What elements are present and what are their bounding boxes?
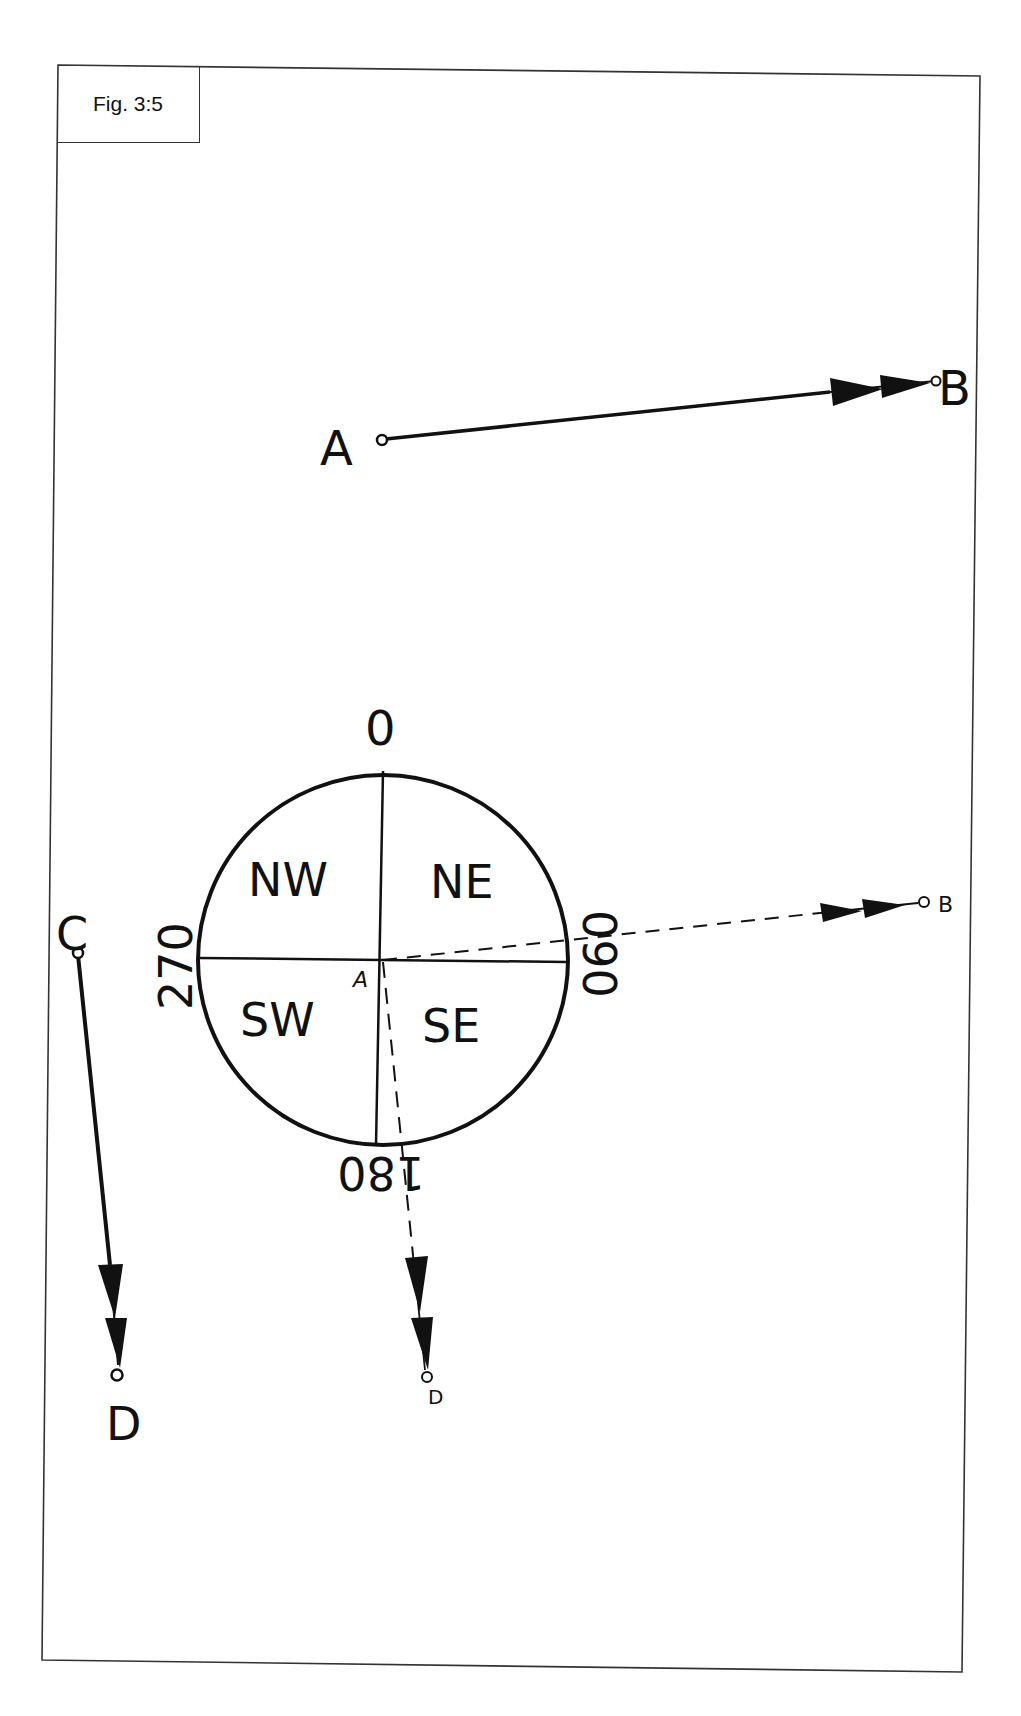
label-dashed-b: B <box>938 892 953 917</box>
arrowhead-icon <box>862 899 905 918</box>
label-point-c: C <box>56 907 88 961</box>
bearing-diagram: A B NW NE SW SE 0 270 090 180 A B D <box>0 0 1021 1716</box>
label-point-a: A <box>320 420 353 476</box>
vector-c-to-d <box>73 948 127 1381</box>
quadrant-nw: NW <box>248 853 328 907</box>
vector-a-to-b <box>377 375 941 445</box>
dashed-point-b-marker <box>919 897 929 907</box>
arrowhead-icon <box>411 1317 433 1370</box>
arrowhead-icon <box>405 1256 428 1312</box>
arrowhead-icon <box>830 378 883 406</box>
point-d-marker <box>112 1370 123 1381</box>
bearing-label-270: 270 <box>149 922 203 1010</box>
dashed-point-d-marker <box>422 1372 432 1382</box>
arrowhead-icon <box>880 375 930 398</box>
figure-frame <box>42 65 980 1672</box>
compass-rose <box>198 771 568 1146</box>
quadrant-se: SE <box>422 999 480 1053</box>
arrowhead-icon <box>105 1318 127 1368</box>
bearing-label-0: 0 <box>365 700 396 756</box>
quadrant-sw: SW <box>240 993 315 1047</box>
label-compass-center: A <box>351 967 368 992</box>
label-dashed-d: D <box>428 1385 443 1409</box>
label-point-b: B <box>938 360 971 416</box>
arrowhead-icon <box>98 1264 123 1318</box>
label-point-d: D <box>106 1397 141 1451</box>
arrowhead-icon <box>820 903 862 922</box>
quadrant-ne: NE <box>430 855 493 909</box>
bearing-label-090: 090 <box>572 910 626 998</box>
point-a-marker <box>377 435 387 445</box>
compass-north-south-line <box>376 771 383 1146</box>
bearing-label-180: 180 <box>337 1146 425 1200</box>
